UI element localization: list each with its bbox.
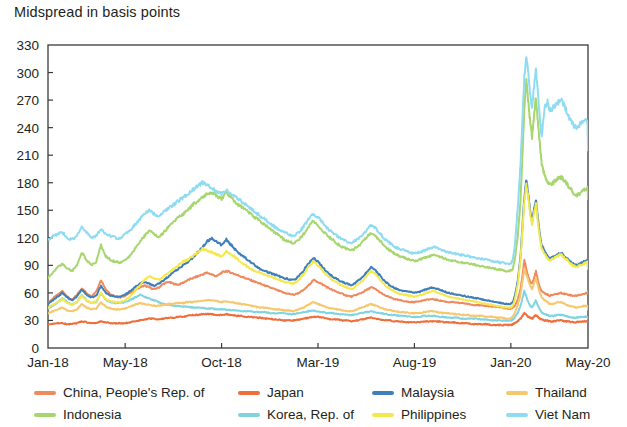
svg-text:60: 60 (24, 286, 39, 301)
chart-legend: China, People's Rep. ofJapanMalaysiaThai… (0, 382, 627, 426)
legend-item[interactable]: Indonesia (34, 404, 238, 426)
svg-text:0: 0 (31, 341, 39, 356)
svg-text:330: 330 (16, 38, 39, 53)
svg-text:Aug-19: Aug-19 (393, 355, 437, 370)
svg-text:May-18: May-18 (103, 355, 148, 370)
svg-text:150: 150 (16, 203, 39, 218)
legend-swatch-icon (372, 391, 394, 395)
svg-text:90: 90 (24, 258, 39, 273)
legend-item-label: China, People's Rep. of (63, 386, 204, 400)
svg-text:Jan-20: Jan-20 (490, 355, 531, 370)
legend-item-label: Philippines (401, 408, 466, 422)
svg-text:Oct-18: Oct-18 (201, 355, 242, 370)
svg-text:30: 30 (24, 313, 39, 328)
legend-item-label: Viet Nam (535, 408, 590, 422)
chart-container: Midspread in basis points 03060901201501… (0, 0, 627, 427)
legend-swatch-icon (238, 391, 260, 395)
legend-item[interactable]: Viet Nam (506, 404, 626, 426)
legend-swatch-icon (238, 413, 260, 417)
svg-text:210: 210 (16, 148, 39, 163)
legend-swatch-icon (506, 413, 528, 417)
legend-swatch-icon (34, 391, 56, 395)
legend-item-label: Japan (267, 386, 304, 400)
legend-item[interactable]: China, People's Rep. of (34, 382, 238, 404)
line-chart-plot: 0306090120150180210240270300330Jan-18May… (0, 0, 627, 380)
legend-item-label: Malaysia (401, 386, 454, 400)
legend-item-label: Indonesia (63, 408, 122, 422)
svg-text:300: 300 (16, 66, 39, 81)
legend-swatch-icon (34, 413, 56, 417)
legend-item[interactable]: Malaysia (372, 382, 506, 404)
svg-text:240: 240 (16, 121, 39, 136)
legend-item-label: Thailand (535, 386, 587, 400)
svg-text:Mar-19: Mar-19 (297, 355, 340, 370)
legend-swatch-icon (506, 391, 528, 395)
legend-item[interactable]: Japan (238, 382, 372, 404)
legend-swatch-icon (372, 413, 394, 417)
svg-text:270: 270 (16, 93, 39, 108)
legend-item[interactable]: Korea, Rep. of (238, 404, 372, 426)
svg-text:May-20: May-20 (565, 355, 610, 370)
svg-text:Jan-18: Jan-18 (27, 355, 68, 370)
legend-item[interactable]: Philippines (372, 404, 506, 426)
legend-item[interactable]: Thailand (506, 382, 626, 404)
legend-item-label: Korea, Rep. of (267, 408, 354, 422)
svg-text:180: 180 (16, 176, 39, 191)
svg-text:120: 120 (16, 231, 39, 246)
